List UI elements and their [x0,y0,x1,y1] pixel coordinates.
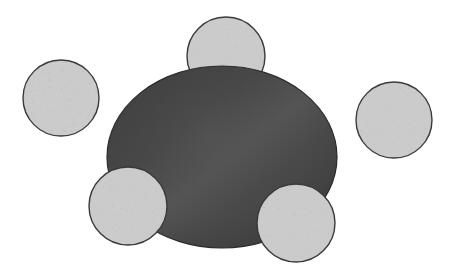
shape-composition-svg [0,0,458,273]
figure-canvas [0,0,458,273]
right-circle [356,82,432,158]
left-circle [23,60,99,136]
bottom-left-circle [89,167,167,245]
bottom-right-circle [257,184,335,262]
